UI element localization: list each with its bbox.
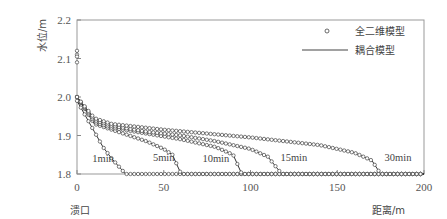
marker-circle-icon (136, 125, 139, 128)
marker-circle-icon (301, 141, 304, 144)
chart: 0501001502001.81.92.02.12.2 1min5min10mi… (0, 0, 447, 219)
marker-circle-icon (255, 136, 258, 139)
marker-circle-icon (102, 146, 105, 149)
marker-circle-icon (121, 169, 124, 172)
marker-circle-icon (323, 172, 326, 175)
marker-circle-icon (236, 135, 239, 138)
marker-circle-icon (201, 143, 204, 146)
markers (75, 49, 422, 176)
marker-circle-icon (392, 172, 395, 175)
marker-circle-icon (228, 143, 231, 146)
marker-circle-icon (182, 138, 185, 141)
marker-circle-icon (171, 172, 174, 175)
marker-circle-icon (404, 172, 407, 175)
marker-circle-icon (213, 139, 216, 142)
marker-circle-icon (297, 172, 300, 175)
marker-circle-icon (419, 172, 422, 175)
curve-annotation: 30min (385, 152, 413, 163)
marker-circle-icon (190, 136, 193, 139)
marker-circle-icon (140, 126, 143, 129)
marker-circle-icon (152, 143, 155, 146)
marker-circle-icon (87, 109, 90, 112)
marker-circle-icon (297, 141, 300, 144)
marker-circle-icon (178, 137, 181, 140)
marker-circle-icon (79, 100, 82, 103)
marker-circle-icon (323, 145, 326, 148)
marker-circle-icon (152, 172, 155, 175)
marker-circle-icon (75, 55, 78, 58)
marker-circle-icon (87, 119, 90, 122)
x-origin-label: 溃口 (70, 204, 90, 216)
marker-circle-icon (144, 130, 147, 133)
marker-circle-icon (102, 120, 105, 123)
marker-circle-icon (194, 141, 197, 144)
marker-circle-icon (247, 147, 250, 150)
marker-circle-icon (148, 130, 151, 133)
marker-circle-icon (152, 127, 155, 130)
curve-annotation: 1min (92, 153, 114, 164)
marker-circle-icon (201, 132, 204, 135)
marker-circle-icon (197, 142, 200, 145)
marker-circle-icon (369, 158, 372, 161)
marker-circle-icon (259, 152, 262, 155)
marker-circle-icon (228, 134, 231, 137)
marker-circle-icon (167, 172, 170, 175)
marker-circle-icon (152, 131, 155, 134)
marker-circle-icon (186, 139, 189, 142)
y-tick-label: 2.2 (57, 14, 71, 26)
marker-circle-icon (278, 169, 281, 172)
y-tick-label: 1.8 (57, 168, 71, 180)
marker-circle-icon (155, 127, 158, 130)
marker-circle-icon (121, 123, 124, 126)
marker-circle-icon (121, 132, 124, 135)
marker-circle-icon (175, 133, 178, 136)
marker-circle-icon (91, 126, 94, 129)
marker-circle-icon (304, 172, 307, 175)
marker-circle-icon (113, 161, 116, 164)
marker-circle-icon (163, 172, 166, 175)
marker-circle-icon (133, 125, 136, 128)
marker-circle-icon (331, 146, 334, 149)
curve-annotation: 10min (202, 153, 230, 164)
marker-circle-icon (190, 140, 193, 143)
marker-circle-icon (270, 160, 273, 163)
y-tick-label: 2.1 (57, 53, 71, 65)
marker-circle-icon (331, 172, 334, 175)
marker-circle-icon (262, 172, 265, 175)
marker-circle-icon (213, 133, 216, 136)
marker-circle-icon (270, 172, 273, 175)
marker-circle-icon (205, 132, 208, 135)
marker-circle-icon (365, 172, 368, 175)
marker-circle-icon (205, 143, 208, 146)
marker-circle-icon (339, 148, 342, 151)
marker-circle-icon (239, 171, 242, 174)
marker-circle-icon (209, 172, 212, 175)
marker-circle-icon (197, 137, 200, 140)
marker-circle-icon (213, 172, 216, 175)
marker-circle-icon (159, 146, 162, 149)
marker-circle-icon (316, 172, 319, 175)
marker-circle-icon (377, 169, 380, 172)
marker-circle-icon (209, 132, 212, 135)
marker-circle-icon (159, 172, 162, 175)
marker-circle-icon (113, 123, 116, 126)
marker-circle-icon (171, 136, 174, 139)
marker-circle-icon (407, 172, 410, 175)
marker-circle-icon (209, 144, 212, 147)
marker-circle-icon (148, 126, 151, 129)
marker-circle-icon (346, 150, 349, 153)
marker-circle-icon (75, 61, 78, 64)
marker-circle-icon (129, 134, 132, 137)
marker-circle-icon (175, 137, 178, 140)
marker-circle-icon (220, 133, 223, 136)
marker-circle-icon (94, 117, 97, 120)
marker-circle-icon (148, 172, 151, 175)
marker-circle-icon (148, 141, 151, 144)
marker-circle-icon (312, 143, 315, 146)
marker-circle-icon (209, 139, 212, 142)
marker-circle-icon (289, 140, 292, 143)
marker-circle-icon (201, 137, 204, 140)
marker-circle-icon (91, 114, 94, 117)
marker-circle-icon (182, 134, 185, 137)
marker-circle-icon (163, 128, 166, 131)
